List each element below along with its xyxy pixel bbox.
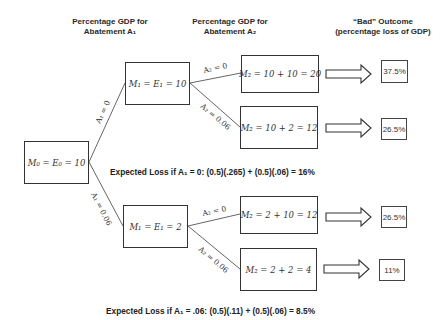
node-m1-bottom: M₁ = E₁ = 2 [123, 205, 188, 248]
arrow-icon [324, 65, 371, 278]
edge-label-top-a2-zero: A₂ = 0 [202, 61, 229, 75]
outcome-4: 11% [379, 259, 405, 281]
expected-loss-a1-006: Expected Loss if A₁ = .06: (0.5)(.11) + … [106, 306, 315, 316]
edge-label-a1-006: A₁ = 0.06 [89, 190, 114, 227]
edge-label-bottom-a2-zero: A₂ = 0 [201, 204, 228, 218]
edge-label-bottom-a2-006: A₂ = 0.06 [196, 244, 230, 275]
edge-label-a1-zero: A₁ = 0 [93, 99, 112, 126]
expected-loss-a1-zero: Expected Loss if A₁ = 0: (0.5)(.265) + (… [110, 167, 315, 177]
node-m2-top-bottom: M₂ = 10 + 2 = 12 [240, 106, 318, 149]
node-root: M₀ = E₀ = 10 [24, 141, 89, 184]
outcome-2: 26.5% [381, 118, 407, 140]
node-m1-top: M₁ = E₁ = 10 [125, 62, 190, 105]
outcome-3: 26.5% [381, 206, 407, 228]
node-m2-bottom-bottom: M₂ = 2 + 2 = 4 [240, 248, 317, 291]
node-m2-top-top: M₂ = 10 + 10 = 20 [241, 55, 319, 93]
node-m2-bottom-top: M₂ = 2 + 10 = 12 [240, 196, 318, 234]
outcome-1: 37.5% [381, 60, 408, 83]
